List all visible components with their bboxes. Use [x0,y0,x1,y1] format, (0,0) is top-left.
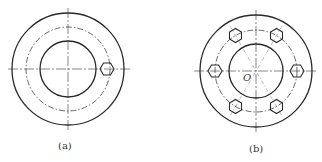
center-point-label: O [243,72,251,83]
figure-a [8,8,130,130]
flange-diagrams [0,0,322,162]
figure-label-b: (b) [249,143,263,154]
figure-b [194,10,318,134]
figure-label-a: (a) [58,140,72,151]
